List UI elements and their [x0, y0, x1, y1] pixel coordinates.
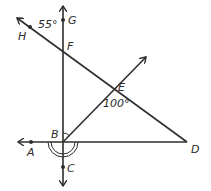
angle-mark-fbe	[63, 133, 70, 136]
label-d: D	[191, 143, 199, 156]
point-g	[61, 18, 65, 22]
label-g: G	[68, 14, 77, 27]
label-c: C	[67, 162, 75, 175]
point-a	[29, 140, 33, 144]
point-c	[61, 165, 65, 169]
label-f: F	[67, 40, 74, 53]
label-h: H	[18, 30, 26, 43]
label-e: E	[118, 81, 125, 94]
angle-label-55: 55°	[38, 18, 58, 31]
label-a: A	[26, 146, 35, 159]
point-h	[28, 25, 32, 29]
line-dh	[17, 18, 187, 142]
angle-label-100: 100°	[103, 97, 130, 110]
label-b: B	[51, 128, 59, 141]
geometry-diagram: A B C D E F G H 55° 100°	[0, 0, 211, 191]
